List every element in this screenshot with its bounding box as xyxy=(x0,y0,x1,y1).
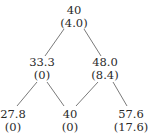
edge-down-downdown xyxy=(17,82,37,106)
edge-down-updown xyxy=(47,82,64,106)
edge-root-down xyxy=(45,29,64,56)
node-root: 40 (4.0) xyxy=(60,4,87,30)
node-option-value: (0) xyxy=(29,69,55,82)
node-down: 33.3 (0) xyxy=(29,56,55,82)
node-option-value: (0) xyxy=(0,121,26,134)
node-option-value: (17.6) xyxy=(114,121,148,134)
node-up-up: 57.6 (17.6) xyxy=(114,108,148,134)
edge-root-up xyxy=(84,29,101,56)
node-option-value: (8.4) xyxy=(91,69,118,82)
node-option-value: (4.0) xyxy=(60,17,87,30)
node-down-down: 27.8 (0) xyxy=(0,108,26,134)
node-option-value: (0) xyxy=(62,121,78,134)
node-up: 48.0 (8.4) xyxy=(91,56,118,82)
node-up-down: 40 (0) xyxy=(62,108,78,134)
edge-up-upup xyxy=(113,82,127,106)
edge-up-updown xyxy=(76,82,98,106)
